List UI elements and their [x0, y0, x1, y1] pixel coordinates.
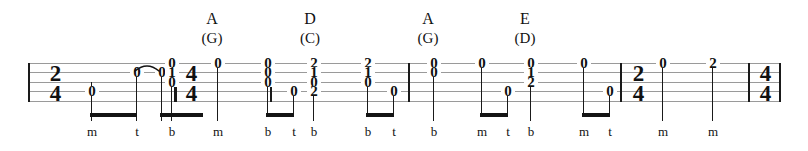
barline-m4-end	[748, 63, 750, 102]
fingering-5: b	[261, 125, 275, 138]
barline-m2-end	[408, 63, 410, 102]
note-m2-2-fret-2: 0	[361, 77, 375, 87]
chord-a-g-2-alternate: (G)	[398, 28, 458, 48]
fingering-16: m	[656, 125, 670, 138]
note-m4-2-fret-0: 0	[577, 58, 591, 68]
fingering-4: m	[211, 125, 225, 138]
staff-line-4	[28, 91, 780, 92]
note-m4-1-fret-2: 2	[524, 77, 538, 87]
barline-final	[779, 63, 781, 102]
chord-a-g-2: A(G)	[398, 10, 458, 48]
chord-a-g-2-primary: A	[398, 10, 458, 28]
time-sig-4-4-main-denominator: 4	[180, 82, 202, 105]
chord-d-c: D(C)	[280, 10, 340, 48]
beam-m3	[480, 113, 508, 117]
tie-pickup	[133, 60, 161, 78]
fingering-2: t	[130, 125, 144, 138]
barline-opening	[28, 63, 30, 102]
note-m1-2-fret-2: 0	[261, 77, 275, 87]
fingering-10: b	[427, 125, 441, 138]
beam-m4	[582, 113, 610, 117]
fingering-15: t	[603, 125, 617, 138]
fingering-9: t	[387, 125, 401, 138]
note-m5-2-fret-0: 2	[706, 58, 720, 68]
chord-a-g: A(G)	[182, 10, 242, 48]
staff-line-3	[28, 82, 780, 83]
time-sig-4-4-final: 44	[754, 62, 776, 105]
staff-line-5	[28, 101, 780, 102]
tablature-sheet: 24442444 A(G)D(C)A(G)E(D) 00001000000210…	[0, 0, 808, 151]
time-sig-4-4-final-denominator: 4	[754, 82, 776, 105]
fingering-3: b	[165, 125, 179, 138]
barline-m3-end	[620, 63, 622, 102]
beam-m2	[366, 113, 394, 117]
chord-e-d-alternate: (D)	[495, 28, 555, 48]
note-m1-3-fret-0: 0	[287, 86, 301, 96]
note-m2-3-fret-0: 0	[387, 86, 401, 96]
time-sig-4-4-main: 44	[180, 62, 202, 105]
note-m3-2-fret-0: 0	[475, 58, 489, 68]
note-m5-1-fret-0: 0	[656, 58, 670, 68]
note-pickup-4-fret-2: 0	[165, 77, 179, 87]
chord-d-c-primary: D	[280, 10, 340, 28]
fingering-6: t	[287, 125, 301, 138]
note-m1-1-fret-0: 0	[211, 58, 225, 68]
time-sig-2-4-opening: 24	[44, 62, 66, 105]
note-m5-1-stem	[662, 63, 663, 121]
beam-pickup-2	[160, 113, 203, 117]
chord-e-d-primary: E	[495, 10, 555, 28]
fingering-12: t	[501, 125, 515, 138]
time-sig-2-4-opening-denominator: 4	[44, 82, 66, 105]
note-m2-1-stem	[313, 96, 314, 121]
time-sig-2-4-ending-denominator: 4	[627, 82, 649, 105]
beam-m1	[266, 113, 294, 117]
time-sig-2-4-ending: 24	[627, 62, 649, 105]
chord-a-g-primary: A	[182, 10, 242, 28]
note-m1-1-stem	[217, 63, 218, 121]
note-m3-1-fret-1: 0	[427, 67, 441, 77]
note-m5-2-stem	[712, 63, 713, 121]
fingering-8: b	[361, 125, 375, 138]
chord-d-c-alternate: (C)	[280, 28, 340, 48]
note-m3-3-fret-0: 0	[501, 86, 515, 96]
note-m4-3-fret-0: 0	[603, 86, 617, 96]
note-m2-1-fret-3: 2	[307, 86, 321, 96]
fingering-1: m	[85, 125, 99, 138]
fingering-14: m	[577, 125, 591, 138]
fingering-17: m	[706, 125, 720, 138]
fingering-11: m	[475, 125, 489, 138]
chord-a-g-alternate: (G)	[182, 28, 242, 48]
chord-e-d: E(D)	[495, 10, 555, 48]
fingering-7: b	[307, 125, 321, 138]
beam-pickup-1	[90, 113, 137, 117]
fingering-13: b	[524, 125, 538, 138]
note-pickup-1-fret-0: 0	[85, 86, 99, 96]
